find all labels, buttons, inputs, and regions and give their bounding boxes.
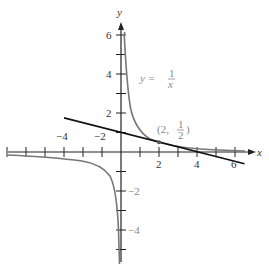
y-tick-label: 6 bbox=[106, 29, 112, 41]
equation-denominator: x bbox=[167, 78, 173, 90]
plot-area: x y −4 −2 2 4 6 6 4 2 −2 −4 y = 1 x (2, … bbox=[0, 0, 269, 270]
x-tick-label: 2 bbox=[156, 158, 162, 170]
tangent-point-marker bbox=[157, 140, 161, 144]
y-axis-arrow-icon bbox=[118, 22, 124, 30]
point-label-close: ) bbox=[186, 123, 190, 136]
curve-equation-annotation: y = 1 x bbox=[139, 67, 175, 90]
y-tick-label: −4 bbox=[128, 224, 140, 236]
curve-left-branch bbox=[8, 155, 120, 264]
curve-right-branch bbox=[124, 32, 245, 151]
y-tick-label: −2 bbox=[128, 185, 140, 197]
x-axis-label: x bbox=[256, 146, 262, 158]
x-tick-label: −2 bbox=[94, 130, 106, 142]
x-tick-label: 6 bbox=[231, 158, 237, 170]
x-axis-arrow-icon bbox=[248, 149, 256, 155]
point-label-open: (2, bbox=[157, 123, 169, 136]
y-tick-label: 2 bbox=[106, 107, 112, 119]
tangent-line bbox=[64, 118, 245, 164]
chart: x y −4 −2 2 4 6 6 4 2 −2 −4 y = 1 x (2, … bbox=[0, 0, 269, 270]
y-tick-label: 4 bbox=[106, 68, 112, 80]
point-annotation: (2, 1 2 ) bbox=[157, 118, 190, 141]
equation-lhs: y = bbox=[139, 72, 155, 84]
x-tick-label: 4 bbox=[194, 158, 200, 170]
point-label-denominator: 2 bbox=[178, 129, 184, 141]
x-tick-label: −4 bbox=[56, 130, 68, 142]
y-axis-label: y bbox=[116, 6, 122, 18]
